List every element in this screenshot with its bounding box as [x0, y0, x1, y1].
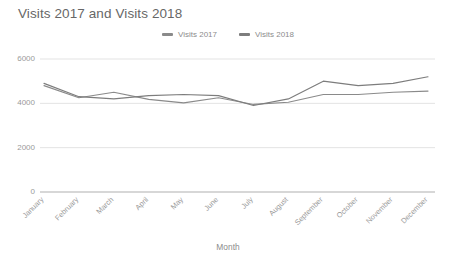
gridlines [40, 59, 435, 192]
ytick-labels: 0200040006000 [17, 54, 35, 196]
x-axis-title: Month [216, 242, 240, 252]
chart-svg: 0200040006000 JanuaryFebruaryMarchAprilM… [0, 0, 456, 263]
x-tick-label: November [364, 195, 395, 226]
y-tick-label: 4000 [17, 98, 35, 107]
y-tick-label: 0 [31, 187, 36, 196]
x-tick-label: May [169, 195, 185, 211]
x-tick-label: March [94, 195, 115, 216]
x-tick-label: December [399, 195, 430, 226]
x-tick-label: August [267, 195, 290, 218]
x-tick-label: June [202, 195, 220, 213]
x-tick-label: September [293, 195, 325, 227]
series-paths [44, 77, 428, 106]
y-tick-label: 2000 [17, 143, 35, 152]
x-tick-label: October [335, 195, 360, 220]
x-tick-label: February [53, 195, 80, 222]
chart-container: Visits 2017 and Visits 2018 Visits 2017 … [0, 0, 456, 263]
x-tick-label: July [239, 195, 255, 211]
y-tick-label: 6000 [17, 54, 35, 63]
xtick-labels: JanuaryFebruaryMarchAprilMayJuneJulyAugu… [20, 195, 429, 227]
plot-area: 0200040006000 JanuaryFebruaryMarchAprilM… [0, 0, 456, 263]
x-tick-label: January [20, 195, 45, 220]
x-tick-label: April [133, 195, 150, 212]
series-line-0 [44, 86, 428, 105]
